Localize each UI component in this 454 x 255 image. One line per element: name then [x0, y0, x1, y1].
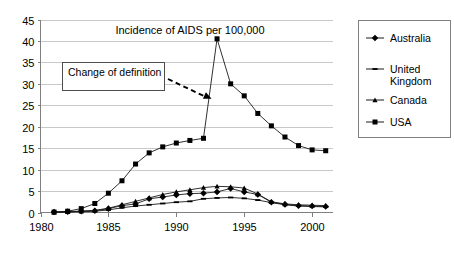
data-point-united-kingdom-1989	[160, 203, 165, 205]
aids-incidence-line-chart: 051015202530354045 19801985199019952000 …	[0, 0, 454, 255]
y-tick-label-10: 10	[22, 165, 34, 177]
legend-marker-square-icon	[373, 120, 378, 125]
legend-label-australia: Australia	[390, 32, 431, 44]
chart-container: 051015202530354045 19801985199019952000 …	[0, 0, 454, 255]
legend-marker-dash-icon	[372, 68, 377, 70]
data-point-usa-1991	[187, 138, 192, 143]
y-tick-label-35: 35	[22, 57, 34, 69]
x-tick-label-1985: 1985	[96, 221, 120, 233]
data-point-usa-1992	[201, 136, 206, 141]
x-tick-label-1990: 1990	[164, 221, 188, 233]
y-tick-label-45: 45	[22, 15, 34, 27]
data-point-usa-1988	[147, 150, 152, 155]
data-point-usa-2001	[323, 148, 328, 153]
x-tick-label-1980: 1980	[29, 221, 53, 233]
data-point-united-kingdom-1992	[201, 198, 206, 200]
data-point-usa-1984	[92, 201, 97, 206]
y-tick-label-25: 25	[22, 100, 34, 112]
data-point-usa-1989	[160, 144, 165, 149]
data-point-usa-1995	[242, 93, 247, 98]
data-point-usa-1993	[215, 36, 220, 41]
legend-label-canada: Canada	[390, 94, 427, 106]
data-point-usa-1986	[119, 178, 124, 183]
data-point-united-kingdom-1995	[242, 197, 247, 199]
data-point-united-kingdom-1987	[133, 205, 138, 207]
data-point-usa-2000	[310, 147, 315, 152]
data-point-usa-1987	[133, 162, 138, 167]
legend-label-usa: USA	[390, 116, 412, 128]
data-point-usa-1994	[228, 81, 233, 86]
data-point-usa-1997	[269, 123, 274, 128]
chart-title: Incidence of AIDS per 100,000	[115, 24, 264, 36]
y-tick-label-15: 15	[22, 143, 34, 155]
data-point-usa-1981	[52, 210, 57, 215]
data-point-usa-1985	[106, 191, 111, 196]
y-tick-label-5: 5	[28, 186, 34, 198]
data-point-united-kingdom-1993	[214, 197, 219, 199]
data-point-united-kingdom-1990	[174, 201, 179, 203]
x-tick-label-2000: 2000	[300, 221, 324, 233]
data-point-usa-1996	[255, 111, 260, 116]
annotation-label: Change of definition	[68, 66, 162, 78]
data-point-united-kingdom-1991	[187, 200, 192, 202]
legend-label-united-kingdom-line2: Kingdom	[390, 75, 432, 87]
data-point-usa-1982	[65, 209, 70, 214]
y-tick-label-20: 20	[22, 122, 34, 134]
data-point-usa-1998	[282, 135, 287, 140]
data-point-usa-1990	[174, 141, 179, 146]
data-point-united-kingdom-1994	[228, 197, 233, 199]
data-point-united-kingdom-1986	[119, 207, 124, 209]
y-tick-label-40: 40	[22, 36, 34, 48]
y-tick-label-0: 0	[28, 208, 34, 220]
y-tick-label-30: 30	[22, 79, 34, 91]
data-point-united-kingdom-1996	[255, 199, 260, 201]
x-tick-label-1995: 1995	[232, 221, 256, 233]
data-point-usa-1983	[79, 206, 84, 211]
data-point-united-kingdom-1988	[147, 204, 152, 206]
data-point-usa-1999	[296, 143, 301, 148]
chart-legend: AustraliaUnitedKingdomCanadaUSA	[359, 21, 451, 138]
legend-label-united-kingdom-line1: United	[390, 63, 421, 75]
